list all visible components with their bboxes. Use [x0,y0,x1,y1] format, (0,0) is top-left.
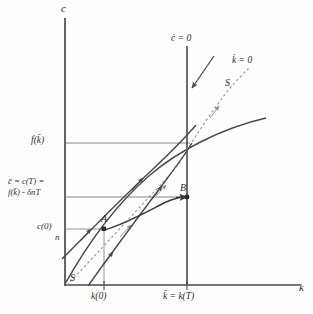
cbar-label-line2: f(k̄) - δnT [8,188,40,198]
saddle-path-lower-segment [67,150,187,285]
c-zero-label: c(0) [37,221,52,231]
trajectory-n-arrow-1 [80,229,91,241]
kbar-label: k̄ = k(T) [163,291,194,302]
saddle-path-upper-label: S [225,77,230,88]
point-a-label: A [101,213,107,224]
saddle-path-lower-label: S [70,272,75,283]
f-kbar-label: f(k̄) [31,135,44,146]
cbar-label-line1: c̄ = c(T) = [8,177,44,187]
phase-diagram-figure: c k ċ = 0 k̇ = 0 S S f(k̄) c̄ = c(T) = f… [0,0,313,314]
diagram-canvas [0,0,313,314]
steady-state-inflow-arrow [192,56,214,88]
kdot-zero-label: k̇ = 0 [232,55,252,66]
k-zero-label: k(0) [91,291,106,302]
trajectory-steep-arrow-1 [103,252,113,265]
c-axis-label: c [61,2,66,14]
n-label: n [55,232,60,242]
point-a-marker [102,227,106,231]
cdot-zero-label: ċ = 0 [171,33,191,44]
k-axis-label: k [299,281,304,293]
transition-path-a-to-b [104,197,184,230]
reference-lines [65,143,190,290]
point-b-label: B [180,182,186,193]
trajectory-n-arrow-2 [132,178,143,190]
saddle-path-upper-segment [187,68,249,150]
point-b-marker [185,195,189,199]
